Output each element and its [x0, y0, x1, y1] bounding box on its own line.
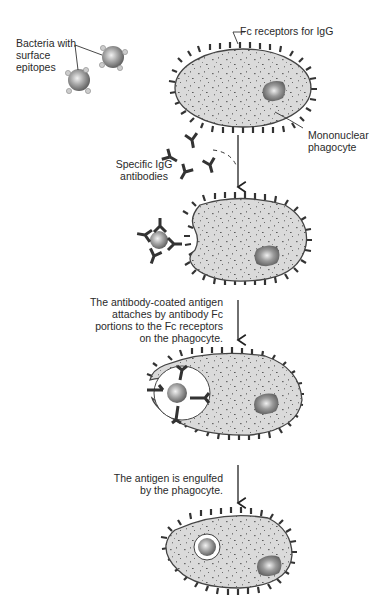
- fc-receptors-label: Fc receptors for IgG: [240, 25, 333, 37]
- opsonization-diagram: Bacteria with surface epitopes Fc recept…: [0, 0, 377, 613]
- bacterium-1: [99, 45, 127, 70]
- step3-label: The antigen is engulfed by the phagocyte…: [100, 472, 223, 496]
- igg-label: Specific IgG antibodies: [104, 158, 184, 182]
- bacteria-leader-line: [75, 45, 102, 70]
- dashed-path: [213, 150, 236, 165]
- phagocyte-2: [183, 192, 312, 285]
- opsonized-bacterium: [136, 218, 182, 266]
- bacteria-label: Bacteria with surface epitopes: [16, 37, 76, 73]
- phagocyte-3: [147, 347, 304, 440]
- phagocyte-1: [169, 42, 317, 133]
- step2-label: The antibody-coated antigen attaches by …: [60, 296, 223, 344]
- phagocyte-label: Mononuclear phagocyte: [308, 129, 369, 153]
- phagocyte-4: [161, 507, 297, 595]
